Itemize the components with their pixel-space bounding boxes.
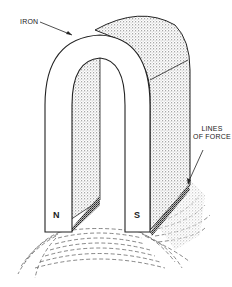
iron-arrowhead [66, 31, 72, 35]
lines-of-force-label: LINES OF FORCE [192, 125, 232, 141]
north-pole-label: N [53, 210, 60, 220]
lines-of-force-label-line1: LINES [192, 125, 232, 133]
iron-label: IRON [20, 18, 38, 26]
horseshoe-magnet-diagram [0, 0, 232, 287]
south-pole-label: S [134, 210, 140, 220]
lines-of-force-label-line2: OF FORCE [192, 133, 232, 141]
